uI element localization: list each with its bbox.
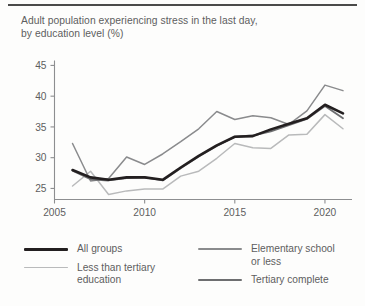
series-line-tertiary-complete bbox=[73, 106, 343, 180]
series-line-all-groups bbox=[73, 105, 343, 180]
y-axis-ticks: 2530354045 bbox=[35, 60, 54, 194]
plot-area: 2530354045 2005201020152020 bbox=[0, 50, 365, 222]
chart-title-line-1: Adult population experiencing stress in … bbox=[21, 14, 351, 27]
x-axis-tick-label: 2015 bbox=[223, 207, 246, 218]
legend-item-less-than-tertiary[interactable]: Less than tertiary education bbox=[24, 262, 194, 287]
chart-figure: Adult population experiencing stress in … bbox=[0, 0, 365, 306]
legend-swatch-icon bbox=[24, 262, 68, 274]
y-axis-tick-label: 35 bbox=[35, 122, 47, 133]
x-axis-tick-label: 2010 bbox=[133, 207, 156, 218]
legend-label: Elementary school or less bbox=[251, 243, 335, 268]
line-chart-svg: 2530354045 2005201020152020 bbox=[0, 50, 365, 222]
legend-column-right: Elementary school or lessTertiary comple… bbox=[198, 243, 363, 293]
legend-label: Tertiary complete bbox=[251, 274, 329, 287]
x-axis-ticks: 2005201020152020 bbox=[43, 200, 336, 219]
series-line-elementary-or-less bbox=[73, 85, 343, 181]
series-line-less-than-tertiary bbox=[73, 115, 343, 195]
legend-label: All groups bbox=[77, 243, 122, 256]
y-axis-tick-label: 25 bbox=[35, 183, 47, 194]
legend-column-left: All groupsLess than tertiary education bbox=[24, 243, 194, 293]
y-axis-tick-label: 45 bbox=[35, 60, 47, 71]
legend-swatch-icon bbox=[198, 243, 242, 255]
data-series-group bbox=[73, 85, 343, 194]
top-divider bbox=[8, 4, 357, 6]
y-axis-tick-label: 30 bbox=[35, 152, 47, 163]
legend-swatch-icon bbox=[24, 243, 68, 255]
chart-title: Adult population experiencing stress in … bbox=[21, 14, 351, 40]
x-axis-tick-label: 2005 bbox=[43, 207, 66, 218]
chart-title-line-2: by education level (%) bbox=[21, 27, 351, 40]
y-axis-tick-label: 40 bbox=[35, 91, 47, 102]
legend-item-elementary-or-less[interactable]: Elementary school or less bbox=[198, 243, 363, 268]
legend-item-all-groups[interactable]: All groups bbox=[24, 243, 194, 256]
legend-item-tertiary-complete[interactable]: Tertiary complete bbox=[198, 274, 363, 287]
legend-label: Less than tertiary education bbox=[77, 262, 155, 287]
chart-legend: All groupsLess than tertiary education E… bbox=[0, 243, 365, 306]
x-axis-tick-label: 2020 bbox=[314, 207, 337, 218]
legend-swatch-icon bbox=[198, 274, 242, 286]
